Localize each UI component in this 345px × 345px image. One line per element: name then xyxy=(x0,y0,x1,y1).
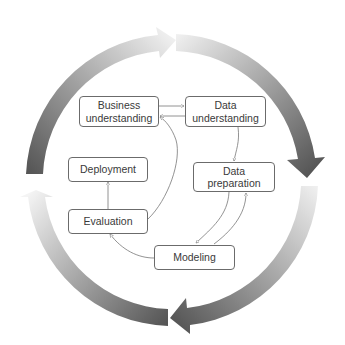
phase-label-line: understanding xyxy=(86,112,153,125)
phase-data-understanding: Data understanding xyxy=(185,96,266,127)
phase-label-line: Modeling xyxy=(173,251,216,264)
phase-label-line: Data xyxy=(207,165,260,178)
phase-label-line: Deployment xyxy=(80,163,136,176)
edge-data-understanding-to-preparation xyxy=(234,127,239,161)
phase-label-line: preparation xyxy=(207,177,260,190)
cycle-svg xyxy=(0,0,345,345)
phase-modeling: Modeling xyxy=(154,245,235,270)
edge-modeling-to-evaluation xyxy=(110,234,154,258)
phase-label-line: understanding xyxy=(192,112,259,125)
phase-label-line: Business xyxy=(86,99,153,112)
phase-evaluation: Evaluation xyxy=(68,209,148,234)
edge-evaluation-to-business xyxy=(148,117,177,219)
edge-modeling-to-preparation xyxy=(214,193,246,244)
phase-deployment: Deployment xyxy=(68,157,148,182)
phase-data-preparation: Data preparation xyxy=(193,162,275,192)
phase-label-line: Evaluation xyxy=(83,215,132,228)
phase-business-understanding: Business understanding xyxy=(79,96,159,127)
crisp-dm-diagram: Business understanding Data understandin… xyxy=(0,0,345,345)
phase-label-line: Data xyxy=(192,99,259,112)
